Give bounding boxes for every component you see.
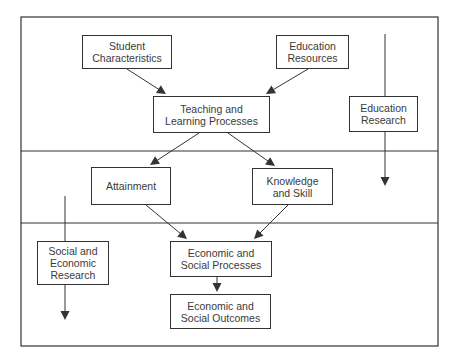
edge-student-to-teaching — [127, 69, 161, 91]
node-label: Social and Economic Research — [48, 245, 97, 281]
arrowhead-icon — [265, 157, 275, 166]
arrowhead-icon — [61, 311, 70, 320]
edge-knowledge-to-processes — [258, 205, 288, 235]
node-label: Economic and Social Outcomes — [181, 300, 260, 324]
arrowhead-icon — [213, 283, 222, 292]
node-label: Student Characteristics — [92, 40, 161, 64]
node-label: Education Resources — [287, 40, 337, 64]
node-resources: Education Resources — [276, 35, 349, 69]
node-teaching: Teaching and Learning Processes — [153, 96, 270, 133]
node-label: Knowledge and Skill — [267, 175, 319, 199]
node-knowledge: Knowledge and Skill — [252, 168, 333, 205]
node-label: Teaching and Learning Processes — [165, 103, 258, 127]
node-label: Education Research — [360, 102, 407, 126]
node-processes: Economic and Social Processes — [170, 241, 272, 277]
arrowhead-icon — [177, 230, 187, 239]
node-attainment: Attainment — [91, 167, 171, 205]
node-socresearch: Social and Economic Research — [37, 241, 109, 285]
node-outcomes: Economic and Social Outcomes — [170, 294, 271, 329]
arrowhead-icon — [266, 86, 276, 94]
node-label: Economic and Social Processes — [181, 247, 262, 271]
node-label: Attainment — [106, 180, 156, 192]
arrowhead-icon — [156, 85, 166, 94]
arrowhead-icon — [150, 156, 160, 165]
edge-attainment-to-processes — [146, 205, 182, 235]
node-student: Student Characteristics — [82, 35, 172, 69]
node-edresearch: Education Research — [349, 96, 418, 132]
arrowhead-icon — [381, 177, 390, 186]
edge-teaching-to-attainment — [155, 133, 199, 162]
edge-teaching-to-knowledge — [228, 133, 270, 163]
edge-resources-to-teaching — [271, 69, 308, 91]
